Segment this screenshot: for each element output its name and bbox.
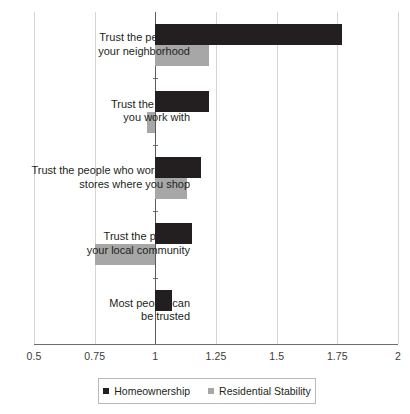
x-tick-label: 0.75 bbox=[84, 350, 105, 362]
x-tick-label: 1.5 bbox=[269, 350, 284, 362]
legend-swatch-icon bbox=[103, 388, 109, 394]
x-tick-label: 1.75 bbox=[327, 350, 348, 362]
x-tick-label: 1 bbox=[152, 350, 158, 362]
chart-page: Trust the people in your neighborhoodTru… bbox=[0, 0, 410, 414]
gridline bbox=[337, 12, 338, 344]
legend-item-residential-stability: Residential Stability bbox=[208, 385, 311, 397]
category-labels: Trust the people in your neighborhoodTru… bbox=[0, 12, 190, 344]
category-label: Trust the police in your local community bbox=[0, 230, 190, 257]
category-label: Trust the people you work with bbox=[0, 98, 190, 125]
legend-swatch-icon bbox=[208, 388, 214, 394]
legend-item-homeownership: Homeownership bbox=[103, 385, 190, 397]
x-tick-label: 1.25 bbox=[206, 350, 227, 362]
gridline bbox=[398, 12, 399, 344]
legend-label: Homeownership bbox=[114, 385, 190, 397]
x-axis-line bbox=[34, 344, 398, 345]
category-label: Trust the people who work in the stores … bbox=[0, 164, 190, 191]
category-label: Most people can be trusted bbox=[0, 297, 190, 324]
plot-area: Trust the people in your neighborhoodTru… bbox=[34, 12, 398, 344]
chart-legend: Homeownership Residential Stability bbox=[98, 378, 316, 404]
legend-label: Residential Stability bbox=[219, 385, 311, 397]
gridline bbox=[216, 12, 217, 344]
gridline bbox=[277, 12, 278, 344]
x-tick-label: 2 bbox=[395, 350, 401, 362]
category-label: Trust the people in your neighborhood bbox=[0, 31, 190, 58]
x-tick-label: 0.5 bbox=[27, 350, 42, 362]
